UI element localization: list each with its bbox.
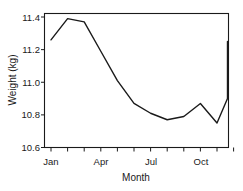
y-tick-label-10-8: 10.8: [22, 109, 41, 120]
y-tick-label-10-6: 10.6: [22, 142, 41, 153]
y-tick-label-11-4: 11.4: [22, 12, 40, 23]
x-tick-label-jul: Jul: [145, 156, 157, 167]
x-tick-label-apr: Apr: [94, 156, 109, 167]
x-axis-title: Month: [122, 172, 150, 183]
y-tick-label-11-2: 11.2: [22, 44, 40, 55]
weight-by-month-line-chart: 10.6 10.8 11.0 11.2 11.4 Jan Apr Jul Oct…: [0, 0, 243, 191]
y-axis-title: Weight (kg): [7, 55, 18, 106]
x-tick-label-oct: Oct: [194, 156, 209, 167]
x-tick-label-jan: Jan: [43, 156, 58, 167]
y-tick-label-11-0: 11.0: [22, 77, 40, 88]
chart-figure: 10.6 10.8 11.0 11.2 11.4 Jan Apr Jul Oct…: [0, 0, 243, 191]
